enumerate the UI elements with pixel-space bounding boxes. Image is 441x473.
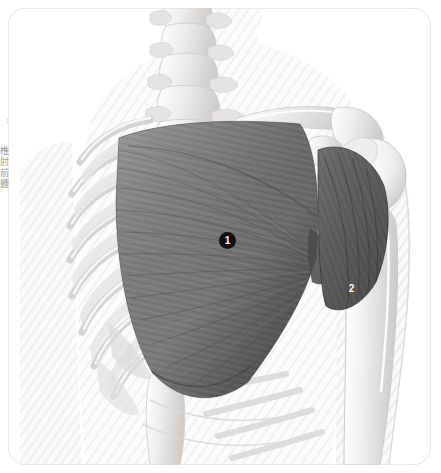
side-caption: 椎肘前體 xyxy=(0,146,10,238)
figure-viewport: 1 2 上 椎肘前體 xyxy=(0,0,441,473)
label-marker-1[interactable]: 1 xyxy=(219,232,236,249)
label-marker-2-text: 2 xyxy=(349,284,355,294)
label-marker-1-text: 1 xyxy=(225,236,231,246)
label-marker-2[interactable]: 2 xyxy=(343,280,360,297)
side-caption-small: 上 xyxy=(0,118,10,134)
